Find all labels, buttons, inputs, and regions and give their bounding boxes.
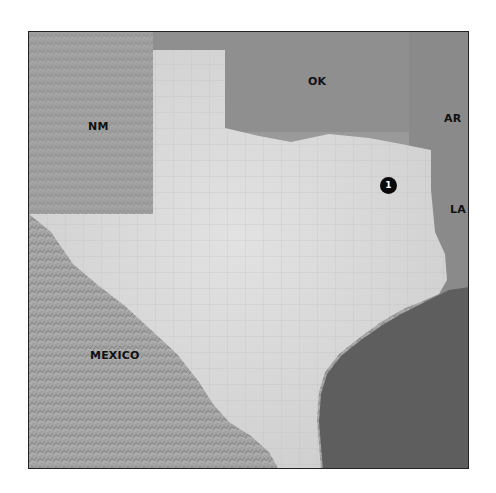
map-canvas: [29, 32, 469, 469]
label-arkansas: AR: [444, 112, 461, 125]
label-mexico: MEXICO: [90, 349, 140, 362]
location-marker-1[interactable]: 1: [380, 177, 397, 194]
label-new-mexico: NM: [88, 120, 109, 133]
label-oklahoma: OK: [308, 75, 326, 88]
map-frame: [28, 31, 469, 469]
label-louisiana: LA: [450, 203, 466, 216]
